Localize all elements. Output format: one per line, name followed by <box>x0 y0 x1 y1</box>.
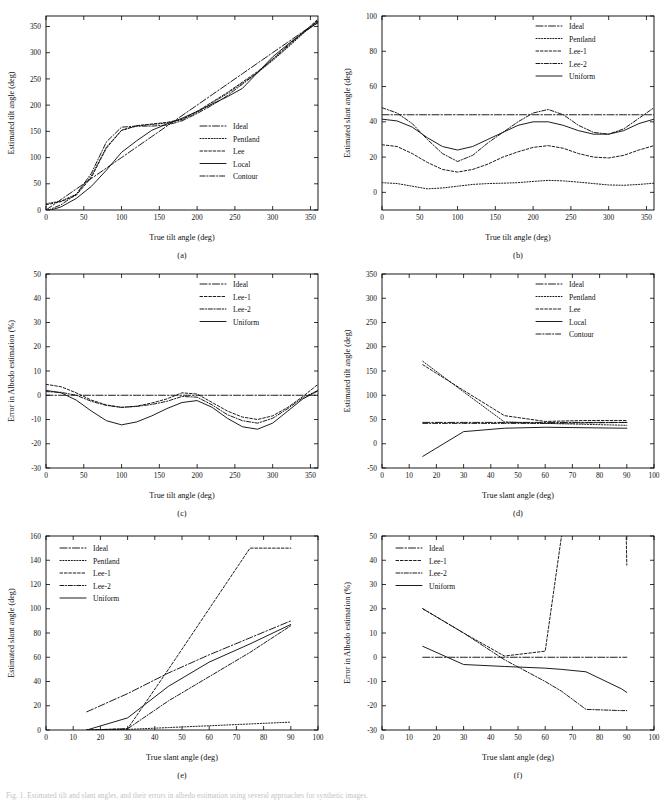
legend-label-lee: Lee <box>569 305 581 314</box>
x-axis-label: True tilt angle (deg) <box>149 233 215 242</box>
plot-frame <box>46 274 318 468</box>
x-tick-label: 300 <box>603 213 614 222</box>
y-tick-label: -20 <box>31 439 41 448</box>
y-tick-label: 0 <box>37 206 41 215</box>
x-axis-label: True tilt angle (deg) <box>485 233 551 242</box>
y-tick-label: -20 <box>367 701 377 710</box>
x-tick-label: 200 <box>192 213 203 222</box>
series-lee <box>423 365 627 422</box>
legend-label-ideal: Ideal <box>569 280 584 289</box>
x-tick-label: 50 <box>514 733 522 742</box>
subplot-label: (e) <box>177 771 187 780</box>
y-axis-label: Estimated tilt angle (deg) <box>7 71 16 154</box>
y-tick-label: 40 <box>34 294 42 303</box>
x-tick-label: 0 <box>380 733 384 742</box>
x-tick-label: 350 <box>305 213 316 222</box>
y-tick-label: 10 <box>34 367 42 376</box>
y-axis-label: Error in Albedo estimation (%) <box>343 582 352 684</box>
x-tick-label: 70 <box>233 733 241 742</box>
x-tick-label: 30 <box>460 471 468 480</box>
legend-label-uniform: Uniform <box>569 72 595 81</box>
chart-panel-b: 050100150200250300350020406080100True ti… <box>336 0 671 262</box>
y-tick-label: 60 <box>34 653 42 662</box>
y-axis-label: Estimated slant angle (deg) <box>343 68 352 158</box>
x-tick-label: 150 <box>154 471 165 480</box>
y-tick-label: 50 <box>370 532 378 541</box>
y-tick-label: 20 <box>34 342 42 351</box>
series-group <box>87 548 291 730</box>
y-axis-label: Estimated slant angle (deg) <box>7 588 16 678</box>
x-tick-label: 100 <box>116 213 127 222</box>
y-tick-label: 40 <box>34 677 42 686</box>
legend: IdealLee-1Lee-2Uniform <box>396 544 455 591</box>
series-uniform <box>382 119 654 150</box>
series-group <box>46 19 318 211</box>
x-tick-label: 90 <box>623 471 631 480</box>
y-tick-label: 20 <box>370 153 378 162</box>
plot-frame <box>382 536 654 730</box>
x-tick-label: 40 <box>151 733 159 742</box>
legend-label-uniform: Uniform <box>233 318 259 327</box>
legend-label-lee: Lee <box>233 147 245 156</box>
series-pentland <box>46 20 318 204</box>
x-tick-label: 0 <box>380 213 384 222</box>
subplot-label: (c) <box>177 509 187 518</box>
x-tick-label: 90 <box>623 733 631 742</box>
chart-panel-d: 0102030405060708090100-50050100150200250… <box>336 258 671 520</box>
y-tick-label: 80 <box>34 629 42 638</box>
y-axis-label: Error in Albedo estimation (%) <box>7 320 16 422</box>
y-tick-label: 200 <box>30 101 41 110</box>
plot-frame <box>382 16 654 210</box>
x-tick-label: 100 <box>648 733 659 742</box>
y-tick-label: 50 <box>34 179 42 188</box>
y-tick-label: 100 <box>366 391 377 400</box>
series-ideal <box>87 621 291 712</box>
legend-label-uniform: Uniform <box>429 582 455 591</box>
x-tick-label: 30 <box>460 733 468 742</box>
chart-panel-f: 0102030405060708090100-30-20-10010203040… <box>336 520 671 782</box>
x-tick-label: 50 <box>514 471 522 480</box>
y-tick-label: -30 <box>367 726 377 735</box>
y-tick-label: 0 <box>373 188 377 197</box>
series-lee-1 <box>382 145 654 172</box>
x-tick-label: 10 <box>406 733 414 742</box>
x-axis-label: True slant angle (deg) <box>146 753 218 762</box>
figure-caption: Fig. 1. Estimated tilt and slant angles,… <box>6 792 666 801</box>
y-tick-label: 40 <box>370 117 378 126</box>
y-tick-label: -10 <box>31 415 41 424</box>
y-tick-label: 300 <box>30 48 41 57</box>
legend: IdealPentlandLeeLocalContour <box>536 280 596 339</box>
y-tick-label: 20 <box>370 604 378 613</box>
series-uniform <box>87 625 291 730</box>
series-lee-1 <box>46 384 318 419</box>
y-tick-label: 100 <box>30 153 41 162</box>
y-tick-label: 40 <box>370 556 378 565</box>
legend-label-ideal: Ideal <box>233 122 248 131</box>
legend-label-lee-2: Lee-2 <box>569 60 587 69</box>
legend-label-ideal: Ideal <box>93 544 108 553</box>
legend: IdealPentlandLee-1Lee-2Uniform <box>60 544 120 603</box>
x-tick-label: 10 <box>406 471 414 480</box>
x-tick-label: 0 <box>380 471 384 480</box>
figure-container: 0501001502002503003500501001502002503003… <box>0 0 671 801</box>
legend-label-lee-2: Lee-2 <box>93 582 111 591</box>
x-tick-label: 250 <box>229 213 240 222</box>
legend-label-pentland: Pentland <box>233 135 260 144</box>
y-tick-label: 350 <box>366 270 377 279</box>
legend-label-uniform: Uniform <box>93 594 119 603</box>
x-tick-label: 60 <box>206 733 214 742</box>
x-tick-label: 90 <box>287 733 295 742</box>
subplot-label: (d) <box>513 509 523 518</box>
x-tick-label: 200 <box>192 471 203 480</box>
y-tick-label: 250 <box>366 318 377 327</box>
y-tick-label: 10 <box>370 629 378 638</box>
x-tick-label: 250 <box>565 213 576 222</box>
x-tick-label: 70 <box>569 733 577 742</box>
x-tick-label: 40 <box>487 471 495 480</box>
y-tick-label: 250 <box>30 75 41 84</box>
legend: IdealLee-1Lee-2Uniform <box>200 280 259 327</box>
x-tick-label: 250 <box>229 471 240 480</box>
y-tick-label: 50 <box>370 415 378 424</box>
x-tick-label: 70 <box>569 471 577 480</box>
legend-label-lee-2: Lee-2 <box>233 305 251 314</box>
